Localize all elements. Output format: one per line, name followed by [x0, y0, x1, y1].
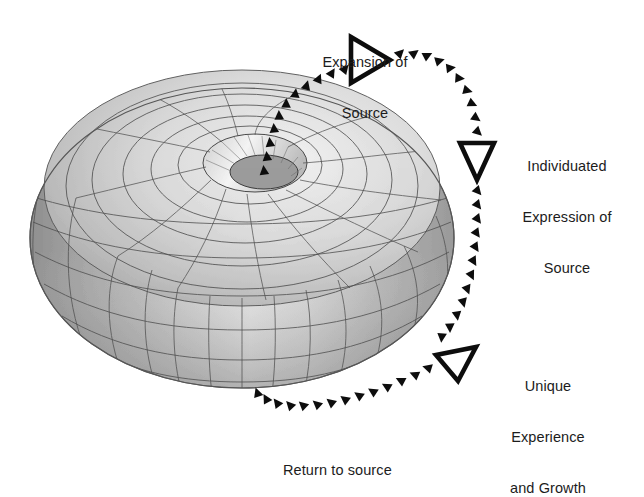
label-expansion-line2: Source [290, 105, 440, 122]
marker-unique-triangle [436, 347, 476, 381]
label-individuated-expression-of-source: Individuated Expression of Source [505, 124, 629, 311]
marker-individuated-triangle [460, 143, 494, 180]
label-unique-line3: and Growth [492, 480, 604, 497]
label-unique-line2: Experience [492, 429, 604, 446]
label-individuated-line2: Expression of [505, 209, 629, 226]
label-individuated-line1: Individuated [505, 158, 629, 175]
label-unique-line1: Unique [492, 378, 604, 395]
label-return-to-source: Return to source [283, 428, 392, 497]
label-individuated-line3: Source [505, 260, 629, 277]
label-expansion-line1: Expansion of [290, 54, 440, 71]
label-expansion-of-source: Expansion of Source [290, 20, 440, 156]
label-unique-experience-and-growth: Unique Experience and Growth [492, 344, 604, 497]
label-return-line1: Return to source [283, 462, 392, 479]
